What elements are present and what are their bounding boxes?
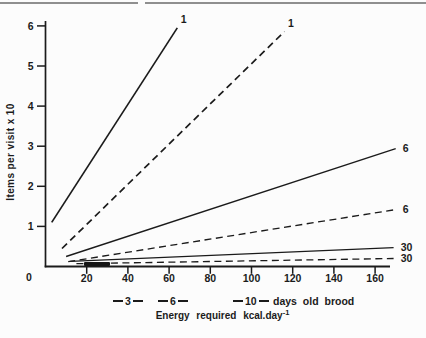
series-lines — [52, 28, 396, 264]
legend-suffix: days old brood — [273, 295, 354, 307]
x-axis-title-exponent: -1 — [283, 308, 290, 317]
legend-dash-icon — [233, 300, 243, 302]
y-tick-label: 5 — [28, 60, 34, 72]
x-tick-label: 60 — [163, 272, 175, 284]
legend-dash-icon — [259, 300, 269, 302]
chart-canvas: 123456204060801001201401600 11663030 — [0, 0, 426, 338]
y-tick-label: 4 — [28, 100, 34, 112]
axes — [37, 21, 390, 274]
legend-dash-icon — [178, 300, 188, 302]
series-end-label-brood-6-solid: 6 — [403, 142, 409, 154]
series-end-label-brood-1-dashed: 1 — [288, 17, 294, 29]
series-end-label-brood-6-dashed: 6 — [403, 203, 409, 215]
series-line-brood-1-dashed — [62, 32, 285, 249]
series-end-label-brood-30-dashed: 30 — [401, 252, 413, 264]
series-end-label-brood-1-solid: 1 — [181, 13, 187, 25]
ink-smudge — [84, 262, 110, 266]
legend-item-label: 6 — [170, 295, 176, 307]
legend-dash-icon — [133, 300, 143, 302]
legend-item-label: 3 — [125, 295, 131, 307]
x-tick-label: 40 — [122, 272, 134, 284]
y-tick-label: 6 — [28, 20, 34, 32]
x-axis-title: Energy required kcal.day-1 — [19, 308, 426, 321]
x-origin-label: 0 — [26, 271, 32, 283]
x-tick-label: 160 — [366, 272, 384, 284]
x-tick-label: 80 — [204, 272, 216, 284]
x-tick-label: 120 — [284, 272, 302, 284]
y-tick-label: 2 — [28, 180, 34, 192]
legend-item-3: 3 — [111, 295, 145, 307]
y-tick-label: 3 — [28, 140, 34, 152]
legend-dash-icon — [158, 300, 168, 302]
tick-labels: 123456204060801001201401600 — [26, 20, 384, 285]
series-end-labels: 11663030 — [181, 13, 413, 264]
legend: days old brood 3610 — [0, 295, 426, 309]
y-axis-title: Items per visit x 10 — [5, 82, 19, 222]
series-line-brood-1-solid — [52, 28, 178, 223]
legend-item-10: 10 — [231, 295, 271, 307]
scanned-figure-page: 123456204060801001201401600 11663030 Ite… — [0, 0, 426, 338]
x-axis-title-text: Energy required kcal.day — [156, 310, 283, 321]
series-line-brood-6-solid — [66, 149, 396, 257]
x-tick-label: 20 — [81, 272, 93, 284]
legend-item-6: 6 — [156, 295, 190, 307]
legend-item-label: 10 — [245, 295, 257, 307]
x-tick-label: 100 — [243, 272, 261, 284]
x-tick-label: 140 — [325, 272, 343, 284]
y-tick-label: 1 — [28, 220, 34, 232]
legend-dash-icon — [113, 300, 123, 302]
